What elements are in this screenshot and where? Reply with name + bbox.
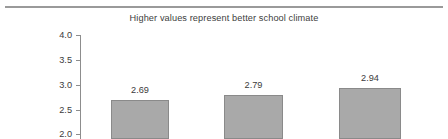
- bar-2-value-label: 2.79: [224, 81, 283, 90]
- y-tick-label-2-5: 2.5: [30, 106, 72, 115]
- bar-2: [224, 95, 283, 139]
- y-tick-mark-2-5: [76, 110, 81, 111]
- y-axis-line: [80, 35, 81, 139]
- y-tick-label-4-0: 4.0: [30, 31, 72, 40]
- y-tick-label-3-5: 3.5: [30, 56, 72, 65]
- chart-title: Higher values represent better school cl…: [0, 13, 448, 24]
- y-tick-mark-2-0: [76, 134, 81, 135]
- y-tick-mark-3-5: [76, 60, 81, 61]
- y-tick-label-2-0: 2.0: [30, 130, 72, 139]
- bar-3-value-label: 2.94: [339, 74, 401, 83]
- bar-1: [111, 100, 169, 139]
- y-tick-label-3-0: 3.0: [30, 81, 72, 90]
- bar-1-value-label: 2.69: [111, 86, 169, 95]
- bar-3: [339, 88, 401, 139]
- bar-chart-figure: Higher values represent better school cl…: [0, 0, 448, 139]
- y-tick-mark-3-0: [76, 85, 81, 86]
- y-tick-mark-4-0: [76, 35, 81, 36]
- top-divider-rule: [5, 6, 443, 8]
